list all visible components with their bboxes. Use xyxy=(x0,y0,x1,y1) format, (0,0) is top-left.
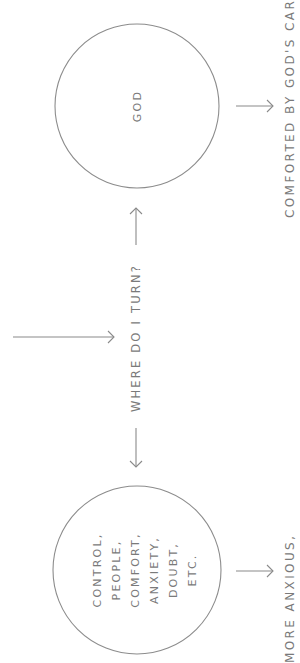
question-label: WHERE DO I TURN? xyxy=(129,264,143,412)
idols-line-doubt: DOUBT, xyxy=(167,542,180,598)
branch-arrow-down-icon xyxy=(130,428,142,467)
idols-node: CONTROL, PEOPLE, COMFORT, ANXIETY, DOUBT… xyxy=(53,486,221,654)
idols-line-people: PEOPLE, xyxy=(110,540,123,601)
idols-line-control: CONTROL, xyxy=(91,533,104,608)
idols-line-etc: ETC. xyxy=(186,553,199,586)
god-node-label: GOD xyxy=(131,90,144,122)
diagram-svg: WHERE DO I TURN? GOD CONTROL, PEOPLE, CO… xyxy=(0,0,300,663)
idols-line-comfort: COMFORT, xyxy=(129,532,142,607)
god-outcome-label: COMFORTED BY GOD'S CARE xyxy=(283,0,297,218)
branch-arrow-up-icon xyxy=(130,208,142,245)
idols-outcome-arrow-icon xyxy=(236,565,273,577)
god-outcome-arrow-icon xyxy=(236,100,273,112)
god-node: GOD xyxy=(55,24,219,188)
incoming-arrow-icon xyxy=(13,331,114,343)
idols-outcome-label: MORE ANXIOUS, xyxy=(283,534,297,663)
idols-line-anxiety: ANXIETY, xyxy=(148,536,161,604)
turning-diagram: WHERE DO I TURN? GOD CONTROL, PEOPLE, CO… xyxy=(0,0,300,663)
